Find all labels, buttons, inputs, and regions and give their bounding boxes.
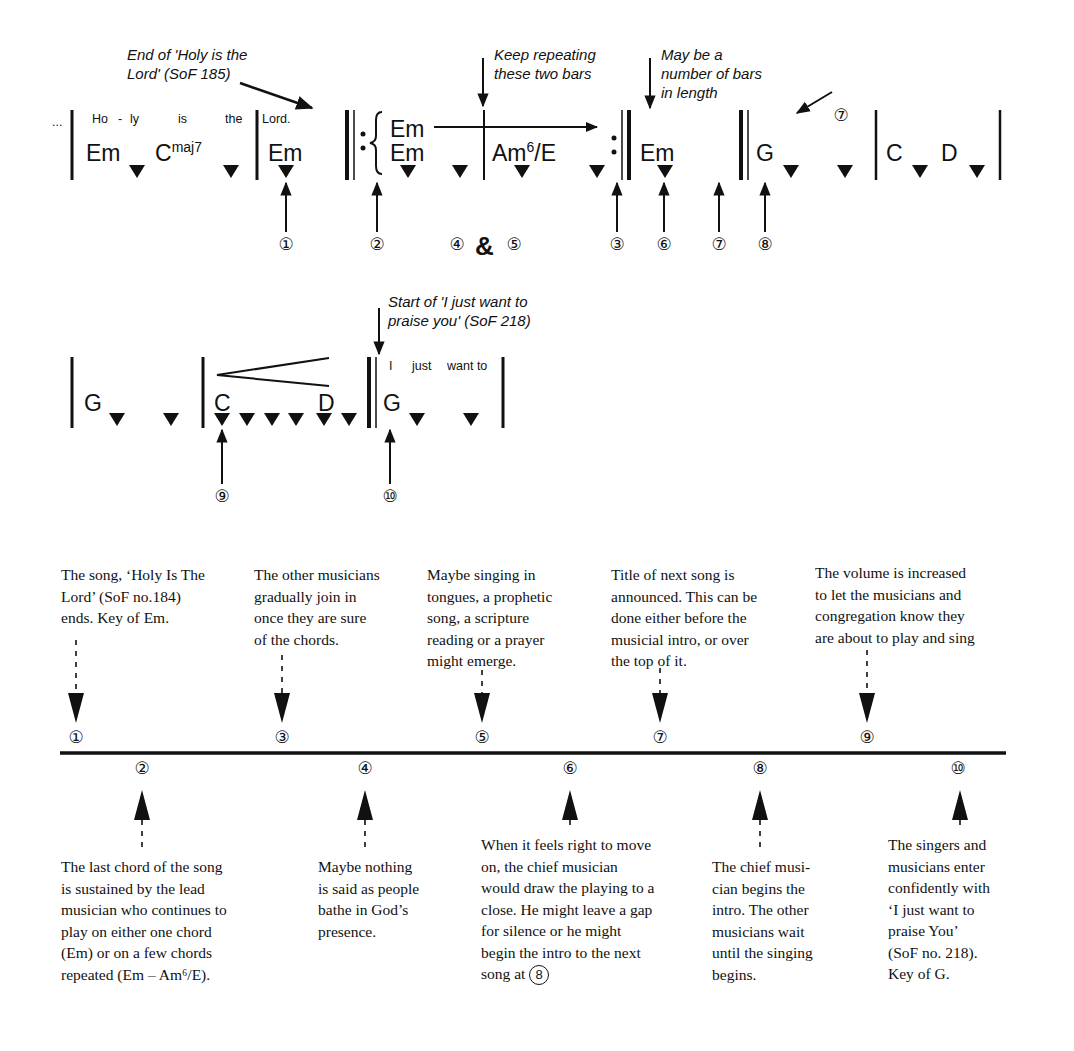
note-may-be-bars: May be a number of bars in length xyxy=(661,45,762,102)
chord-extension: maj7 xyxy=(172,139,202,155)
chord-em: Em xyxy=(640,142,675,165)
chord-am6-e: Am6/E xyxy=(492,142,556,165)
note-keep-repeating: Keep repeating these two bars xyxy=(494,45,596,83)
chord-em: Em xyxy=(86,142,121,165)
note-end-holy: End of 'Holy is the Lord' (SoF 185) xyxy=(127,45,247,83)
chord-c: C xyxy=(886,142,903,165)
timeline-desc-6: When it feels right to move on, the chie… xyxy=(481,834,654,985)
lyric: I xyxy=(389,359,392,373)
chord-extension: 6 xyxy=(527,139,535,155)
timeline-desc-3: The other musicians gradually join in on… xyxy=(254,564,380,650)
timeline-marker-10: ⑩ xyxy=(946,760,970,777)
timeline-marker-6: ⑥ xyxy=(558,760,582,777)
chord-g: G xyxy=(84,392,102,415)
lyric: want to xyxy=(447,359,487,373)
chord-em-bottom: Em xyxy=(390,142,425,165)
note-line: May be a xyxy=(661,45,762,64)
marker-4: ④ xyxy=(445,236,469,253)
note-line: number of bars xyxy=(661,64,762,83)
lyric: Lord. xyxy=(262,112,291,126)
lyric: - xyxy=(118,112,122,126)
timeline-marker-1: ① xyxy=(64,729,88,746)
note-line: these two bars xyxy=(494,64,596,83)
ellipsis: ... xyxy=(52,115,62,129)
timeline-desc-2: The last chord of the song is sustained … xyxy=(61,856,227,985)
note-line: Keep repeating xyxy=(494,45,596,64)
timeline-marker-8: ⑧ xyxy=(748,760,772,777)
marker-9: ⑨ xyxy=(210,488,234,505)
marker-1: ① xyxy=(274,236,298,253)
row2-beat-triangles xyxy=(109,413,479,426)
note-line: End of 'Holy is the xyxy=(127,45,247,64)
lyric: ly xyxy=(130,112,139,126)
timeline-marker-9: ⑨ xyxy=(855,729,879,746)
timeline-marker-7: ⑦ xyxy=(648,729,672,746)
timeline-marker-5: ⑤ xyxy=(470,729,494,746)
lyric: is xyxy=(178,112,187,126)
chord-d: D xyxy=(941,142,958,165)
chord-d: D xyxy=(318,392,335,415)
chord-root: Am xyxy=(492,140,527,166)
timeline-desc-5: Maybe singing in tongues, a prophetic so… xyxy=(427,564,552,672)
timeline-desc-8: The chief musi- cian begins the intro. T… xyxy=(712,856,813,985)
timeline-desc-7: Title of next song is announced. This ca… xyxy=(611,564,757,672)
marker-5: ⑤ xyxy=(502,236,526,253)
marker-7-top: ⑦ xyxy=(829,107,853,124)
chord-root: C xyxy=(155,140,172,166)
timeline-desc-4: Maybe nothing is said as people bathe in… xyxy=(318,856,419,942)
marker-6: ⑥ xyxy=(652,236,676,253)
chord-em-top: Em xyxy=(390,118,425,141)
timeline-marker-4: ④ xyxy=(353,760,377,777)
chord-c: C xyxy=(214,392,231,415)
timeline-desc-9: The volume is increased to let the music… xyxy=(815,562,975,648)
timeline-desc-10: The singers and musicians enter confiden… xyxy=(888,834,990,985)
note-line: Start of 'I just want to xyxy=(388,292,531,311)
lyric: Ho xyxy=(92,112,108,126)
timeline-desc-1: The song, ‘Holy Is The Lord’ (SoF no.184… xyxy=(61,564,205,629)
note-line: Lord' (SoF 185) xyxy=(127,64,247,83)
lyric: the xyxy=(225,112,242,126)
row2-barlines xyxy=(72,357,503,428)
lyric: just xyxy=(412,359,431,373)
ampersand: & xyxy=(475,231,494,262)
marker-7: ⑦ xyxy=(707,236,731,253)
note-line: praise you' (SoF 218) xyxy=(388,311,531,330)
chord-bass: /E xyxy=(534,140,556,166)
desc-text: When it feels right to move on, the chie… xyxy=(481,836,654,982)
chord-em: Em xyxy=(268,142,303,165)
note-start-praise: Start of 'I just want to praise you' (So… xyxy=(388,292,531,330)
chord-cmaj7: Cmaj7 xyxy=(155,142,202,165)
chord-g: G xyxy=(756,142,774,165)
brace xyxy=(370,112,382,174)
inline-marker-8: 8 xyxy=(529,965,549,985)
marker-10: ⑩ xyxy=(378,488,402,505)
timeline-marker-2: ② xyxy=(130,760,154,777)
crescendo-hairpin xyxy=(217,358,329,386)
marker-8: ⑧ xyxy=(753,236,777,253)
marker-2: ② xyxy=(365,236,389,253)
chord-g: G xyxy=(383,392,401,415)
note-line: in length xyxy=(661,83,762,102)
timeline-marker-3: ③ xyxy=(270,729,294,746)
marker-3: ③ xyxy=(605,236,629,253)
